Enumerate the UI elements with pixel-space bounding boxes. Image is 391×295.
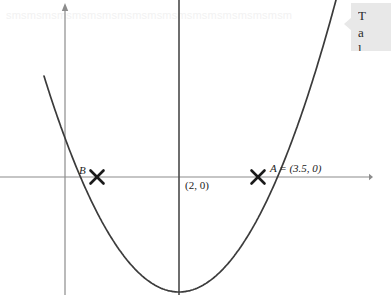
point-a-label: A = (3.5, 0)	[270, 162, 322, 174]
point-b-label: B	[79, 164, 86, 176]
callout-line-3: l	[358, 41, 386, 51]
callout-box: T a l	[351, 3, 391, 51]
vertex-label: (2, 0)	[185, 179, 209, 191]
callout-line-2: a	[358, 24, 386, 41]
callout-line-1: T	[358, 7, 386, 24]
parabola-curve	[44, 0, 337, 292]
x-axis-arrow-icon	[369, 174, 373, 180]
y-axis-arrow-icon	[62, 3, 68, 11]
